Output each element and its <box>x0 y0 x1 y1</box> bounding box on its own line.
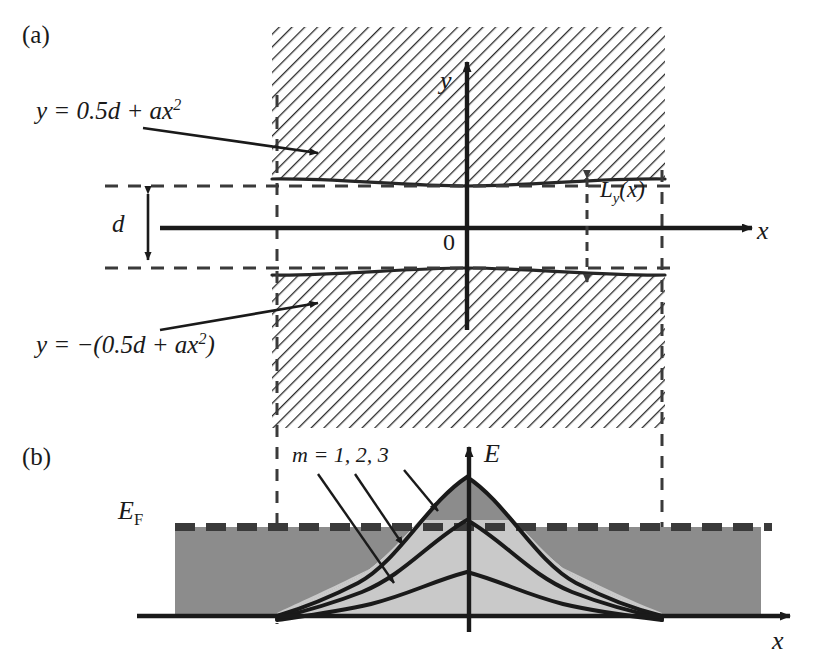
figure-container: (a) y = 0.5d + ax2 y = −(0.5d + ax2) x y… <box>0 0 823 671</box>
upper-equation-exponent: 2 <box>173 96 181 113</box>
mode-index-label: m = 1, 2, 3 <box>292 444 389 466</box>
local-width-argument: (x) <box>619 177 645 202</box>
panel-b-label: (b) <box>22 444 51 469</box>
local-width-label: Ly(x) <box>600 178 645 205</box>
panel-b-energy-axis-label: E <box>484 441 500 467</box>
lower-boundary-equation: y = −(0.5d + ax2) <box>36 331 215 357</box>
panel-a-x-axis-label: x <box>757 218 769 244</box>
panel-a-label: (a) <box>22 22 50 47</box>
lower-equation-text: y = −(0.5d + ax <box>36 331 198 358</box>
lower-equation-suffix: ) <box>206 331 214 358</box>
panel-b-x-axis-label: x <box>772 628 784 654</box>
panel-a-origin-label: 0 <box>443 230 455 254</box>
fermi-subscript: F <box>134 510 143 529</box>
gap-label: d <box>112 211 125 236</box>
upper-boundary-equation: y = 0.5d + ax2 <box>36 97 181 123</box>
mode-leader-3 <box>404 470 438 511</box>
upper-equation-text: y = 0.5d + ax <box>36 97 173 124</box>
fermi-level-label: EF <box>118 498 143 529</box>
local-width-symbol: L <box>600 177 613 202</box>
fermi-symbol: E <box>118 496 134 525</box>
panel-a-y-axis-label: y <box>440 68 452 94</box>
